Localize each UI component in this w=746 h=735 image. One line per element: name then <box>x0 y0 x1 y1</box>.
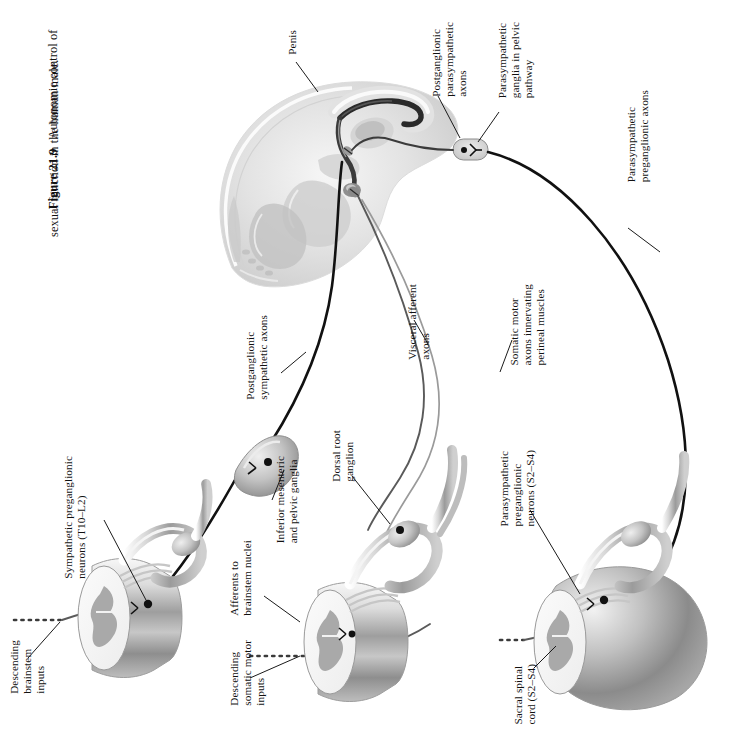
figure-page: Figure 21.9 Autonomic control of sexual … <box>0 0 746 735</box>
label-visceral-afferent-axons: Visceral afferent axons <box>406 284 432 360</box>
sacral-cord-segment <box>534 456 707 710</box>
label-postganglionic-sympathetic-axons: Postganglionic sympathetic axons <box>244 315 270 400</box>
sympathetic-ganglion-soma <box>264 458 272 466</box>
label-parasympathetic-preganglionic-axons: Parasympathetic preganglionic axons <box>625 90 651 182</box>
figure-caption-line2: sexual function in the human male. <box>47 22 63 237</box>
label-postganglionic-parasympathetic-axons: Postganglionic parasympathetic axons <box>430 22 470 97</box>
label-descending-brainstem-inputs: Descending brainstem inputs <box>8 640 48 694</box>
label-inferior-mesenteric-and-pelvic-ganglia: Inferior mesenteric and pelvic ganglia <box>274 456 300 543</box>
label-descending-somatic-motor-inputs: Descending somatic motor inputs <box>228 640 268 706</box>
label-sacral-spinal-cord: Sacral spinal cord (S2–S4) <box>512 664 538 725</box>
sympathetic-preganglionic-soma <box>144 600 152 608</box>
leader-postganglionic-sympathetic <box>281 352 306 373</box>
parasympathetic-preganglionic-soma <box>600 596 608 604</box>
leader-pelvic-ganglia <box>478 112 499 142</box>
label-sympathetic-preganglionic-neurons: Sympathetic preganglionic neurons (T10–L… <box>62 456 88 579</box>
dorsal-root-ganglion-soma <box>396 526 404 534</box>
leader-parasympathetic-preganglionic <box>628 228 660 252</box>
label-dorsal-root-ganglion: Dorsal root ganglion <box>330 430 356 482</box>
label-parasympathetic-preganglionic-neurons: Parasympathetic preganglionic neurons (S… <box>498 450 538 526</box>
label-parasympathetic-ganglia-pelvic-pathway: Parasympathetic ganglia in pelvic pathwa… <box>496 22 536 98</box>
label-somatic-motor-axons: Somatic motor axons innervating perineal… <box>508 284 548 366</box>
pelvic-ganglion <box>453 139 488 160</box>
visceral-afferent-axon-path <box>358 196 424 530</box>
mid-cord-segment <box>304 450 464 702</box>
thoracolumbar-cord-segment <box>78 484 208 678</box>
leader-afferents-brainstem <box>264 596 300 622</box>
somatic-motor-axon-path <box>362 200 439 538</box>
leader-dorsal-root-ganglion <box>352 476 390 524</box>
label-penis: Penis <box>286 30 299 55</box>
leader-penis <box>296 62 318 92</box>
label-afferents-to-brainstem-nuclei: Afferents to brainstem nuclei <box>228 540 254 616</box>
